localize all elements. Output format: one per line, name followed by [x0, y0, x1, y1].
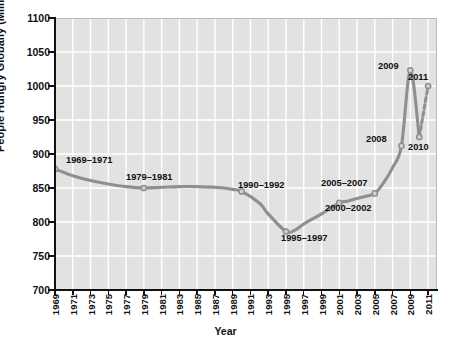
y-axis-line	[54, 17, 56, 291]
x-tick-mark	[285, 291, 287, 295]
data-series-layer	[55, 18, 437, 290]
x-tick-mark	[410, 291, 412, 295]
x-tick-label: 2003	[352, 294, 363, 315]
x-tick-label: 2007	[388, 294, 399, 315]
y-tick-mark	[48, 221, 54, 223]
x-tick-mark	[125, 291, 127, 295]
x-tick-mark	[143, 291, 145, 295]
x-tick-mark	[108, 291, 110, 295]
x-tick-label: 1977	[121, 294, 132, 315]
y-axis-tick-labels: 700750800850900950100010501100	[0, 0, 50, 344]
x-tick-label: 2005	[370, 294, 381, 315]
y-tick-mark	[48, 153, 54, 155]
annotation-2005-2007: 2005–2007	[321, 178, 368, 188]
x-tick-mark	[303, 291, 305, 295]
x-tick-label: 1989	[228, 294, 239, 315]
annotation-2000-2002: 2000–2002	[325, 203, 372, 213]
annotation-2009: 2009	[378, 61, 399, 71]
annotation-2010: 2010	[408, 142, 429, 152]
y-tick-label: 1100	[27, 12, 50, 24]
x-tick-label: 1987	[210, 294, 221, 315]
y-tick-mark	[48, 255, 54, 257]
x-tick-mark	[356, 291, 358, 295]
x-tick-mark	[196, 291, 198, 295]
y-tick-mark	[48, 119, 54, 121]
x-tick-label: 1971	[68, 294, 79, 315]
x-tick-mark	[179, 291, 181, 295]
x-tick-mark	[54, 291, 56, 295]
x-tick-label: 1985	[192, 294, 203, 315]
annotation-2011: 2011	[408, 72, 428, 82]
x-tick-label: 2011	[423, 294, 434, 315]
x-tick-mark	[72, 291, 74, 295]
x-tick-label: 1969	[50, 294, 61, 315]
x-tick-label: 1991	[245, 294, 256, 315]
x-tick-label: 1997	[299, 294, 310, 315]
y-tick-label: 1050	[27, 46, 50, 58]
x-tick-label: 1993	[263, 294, 274, 315]
chart-figure: People Hungry Globally (Millions) 700750…	[0, 0, 451, 344]
x-tick-mark	[321, 291, 323, 295]
y-tick-mark	[48, 187, 54, 189]
x-tick-label: 2009	[405, 294, 416, 315]
y-tick-mark	[48, 51, 54, 53]
x-tick-mark	[339, 291, 341, 295]
y-tick-mark	[48, 17, 54, 19]
x-axis-title: Year	[0, 325, 451, 337]
y-tick-mark	[48, 85, 54, 87]
annotation-2008: 2008	[366, 134, 387, 144]
x-tick-mark	[232, 291, 234, 295]
x-tick-label: 1979	[139, 294, 150, 315]
x-tick-label: 1995	[281, 294, 292, 315]
x-tick-mark	[374, 291, 376, 295]
x-tick-label: 2001	[334, 294, 345, 315]
x-tick-mark	[392, 291, 394, 295]
x-tick-label: 1975	[103, 294, 114, 315]
x-tick-mark	[214, 291, 216, 295]
annotation-1979-1981: 1979–1981	[126, 172, 173, 182]
annotation-1990-1992: 1990–1992	[238, 180, 285, 190]
y-tick-label: 1000	[27, 80, 50, 92]
y-tick-mark	[48, 289, 54, 291]
x-tick-mark	[427, 291, 429, 295]
x-tick-label: 1999	[317, 294, 328, 315]
x-tick-mark	[250, 291, 252, 295]
x-tick-mark	[90, 291, 92, 295]
x-axis-line	[54, 289, 438, 291]
plot-area	[55, 18, 437, 290]
x-tick-label: 1973	[86, 294, 97, 315]
annotation-1969-1971: 1969–1971	[66, 155, 113, 165]
annotation-1995-1997: 1995–1997	[281, 233, 328, 243]
x-tick-mark	[267, 291, 269, 295]
x-tick-mark	[161, 291, 163, 295]
x-tick-label: 1983	[174, 294, 185, 315]
x-tick-label: 1981	[157, 294, 168, 315]
